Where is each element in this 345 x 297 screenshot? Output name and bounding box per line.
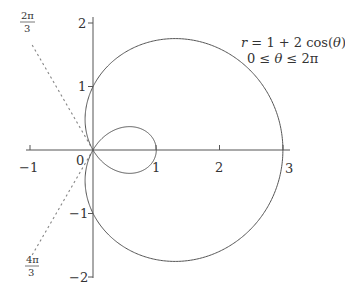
x-tick-label: 2	[215, 160, 223, 175]
angle-label-2pi-3: 2π 3	[20, 10, 35, 34]
domain-label: 0 ≤ θ ≤ 2π	[247, 51, 319, 66]
angle-label-numerator: 4π	[26, 254, 39, 265]
eq-close: )	[341, 35, 345, 50]
eq-theta: θ	[333, 35, 341, 50]
x-tick-label: 3	[285, 161, 293, 176]
x-tick-labels: −1 0 1 2 3	[19, 153, 293, 176]
eq-body: = 1 + 2 cos(	[247, 35, 333, 50]
domain-lhs: 0 ≤	[247, 51, 274, 66]
y-tick-label: 2	[78, 16, 86, 31]
angle-label-denominator: 3	[24, 23, 30, 34]
equation-label: r = 1 + 2 cos(θ)	[241, 35, 345, 50]
x-tick-label: −1	[19, 160, 38, 175]
angle-label-4pi-3: 4π 3	[25, 254, 39, 278]
angle-label-numerator: 2π	[21, 10, 34, 21]
ray-2pi-over-3	[31, 43, 93, 150]
x-tick-label: 1	[152, 160, 160, 175]
angle-label-denominator: 3	[28, 267, 34, 278]
domain-rhs: ≤ 2π	[282, 51, 318, 66]
y-tick-label: −2	[69, 270, 88, 285]
y-tick-label: −1	[69, 206, 88, 221]
domain-theta: θ	[274, 51, 282, 66]
x-tick-label: 0	[76, 153, 84, 168]
y-tick-label: 1	[78, 79, 86, 94]
polar-plot: −1 0 1 2 3 −2 −1 1 2 2π 3 4π 3 r = 1 + 2…	[0, 0, 345, 297]
